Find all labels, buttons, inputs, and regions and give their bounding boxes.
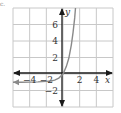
x-axis-left-arrow-icon bbox=[13, 70, 20, 76]
x-tick-label: −2 bbox=[40, 75, 53, 85]
x-tick-label: 4 bbox=[93, 75, 99, 85]
y-tick-label: 4 bbox=[52, 36, 58, 46]
x-tick-label: −4 bbox=[23, 75, 37, 85]
grid bbox=[13, 8, 113, 107]
y-tick-label: 6 bbox=[52, 20, 58, 30]
curve-line bbox=[13, 8, 76, 82]
x-axis-label: x bbox=[105, 75, 110, 85]
y-axis-label: y bbox=[64, 7, 71, 17]
y-axis-down-arrow-icon bbox=[59, 100, 65, 107]
curve-left-arrow-icon bbox=[13, 79, 19, 85]
exponential-graph: −4−224642−2 x y bbox=[0, 0, 121, 113]
x-tick-label: 2 bbox=[77, 75, 83, 85]
y-tick-label: −2 bbox=[45, 86, 58, 96]
y-tick-label: 2 bbox=[52, 53, 58, 63]
